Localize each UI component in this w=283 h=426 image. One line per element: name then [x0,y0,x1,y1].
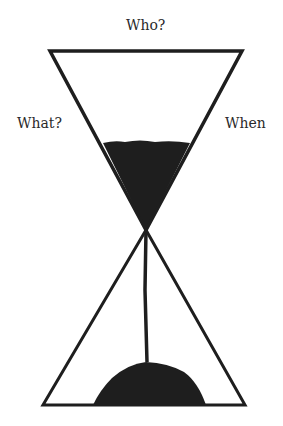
top-sand [103,141,190,231]
hourglass-diagram [0,0,283,426]
bottom-sand [93,362,206,405]
sand-stream [145,230,147,362]
